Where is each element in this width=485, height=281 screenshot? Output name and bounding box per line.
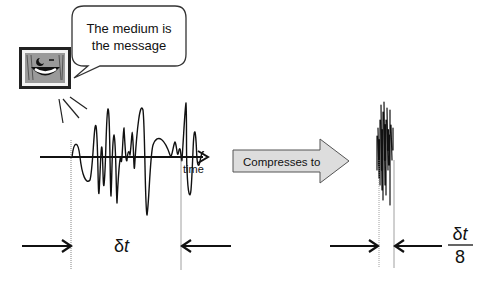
compressed-duration-label: δt 8	[448, 224, 473, 267]
speech-bubble: The medium is the message	[72, 6, 186, 78]
original-waveform: time	[40, 103, 208, 215]
fraction-numerator: δt	[452, 224, 468, 244]
right-duration-arrows	[330, 240, 442, 252]
fraction-denominator: 8	[455, 247, 465, 267]
time-axis-label: time	[183, 163, 204, 175]
compresses-to-arrow: Compresses to	[233, 139, 349, 183]
bubble-line-1: The medium is	[86, 21, 172, 36]
duration-label-dt: δt	[114, 236, 130, 256]
bubble-line-2: the message	[92, 38, 166, 53]
smiling-tv-icon	[19, 47, 71, 89]
sound-rays	[59, 97, 87, 123]
compresses-to-label: Compresses to	[243, 156, 320, 168]
compressed-waveform	[377, 102, 393, 205]
